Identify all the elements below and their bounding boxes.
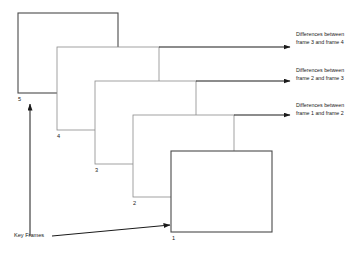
key-frame-rect-1 bbox=[171, 151, 272, 232]
annotation-diff-1-2-line1: Differences between bbox=[296, 102, 344, 108]
frame-number-label-5: 5 bbox=[18, 96, 21, 102]
annotation-diff-2-3-line2: frame 2 and frame 3 bbox=[296, 75, 344, 81]
annotation-diff-3-4-line1: Differences between bbox=[296, 31, 344, 37]
key-frames-diagram: 54321 Key Frames Differences betweenfram… bbox=[0, 0, 361, 258]
key-frames-label: Key Frames bbox=[14, 232, 44, 238]
frame-number-label-3: 3 bbox=[95, 167, 98, 173]
frame-number-label-1: 1 bbox=[172, 235, 175, 241]
annotation-diff-3-4-line2: frame 3 and frame 4 bbox=[296, 39, 344, 45]
annotation-diff-1-2-line2: frame 1 and frame 2 bbox=[296, 110, 344, 116]
frame-number-label-4: 4 bbox=[57, 133, 60, 139]
annotation-diff-2-3-line1: Differences between bbox=[296, 67, 344, 73]
key-frames-diagonal-arrow bbox=[52, 225, 170, 236]
annotation-labels-group: Differences betweenframe 3 and frame 4Di… bbox=[296, 31, 344, 116]
frame-number-label-2: 2 bbox=[133, 200, 136, 206]
diagram-canvas: 54321 Key Frames Differences betweenfram… bbox=[0, 0, 361, 258]
